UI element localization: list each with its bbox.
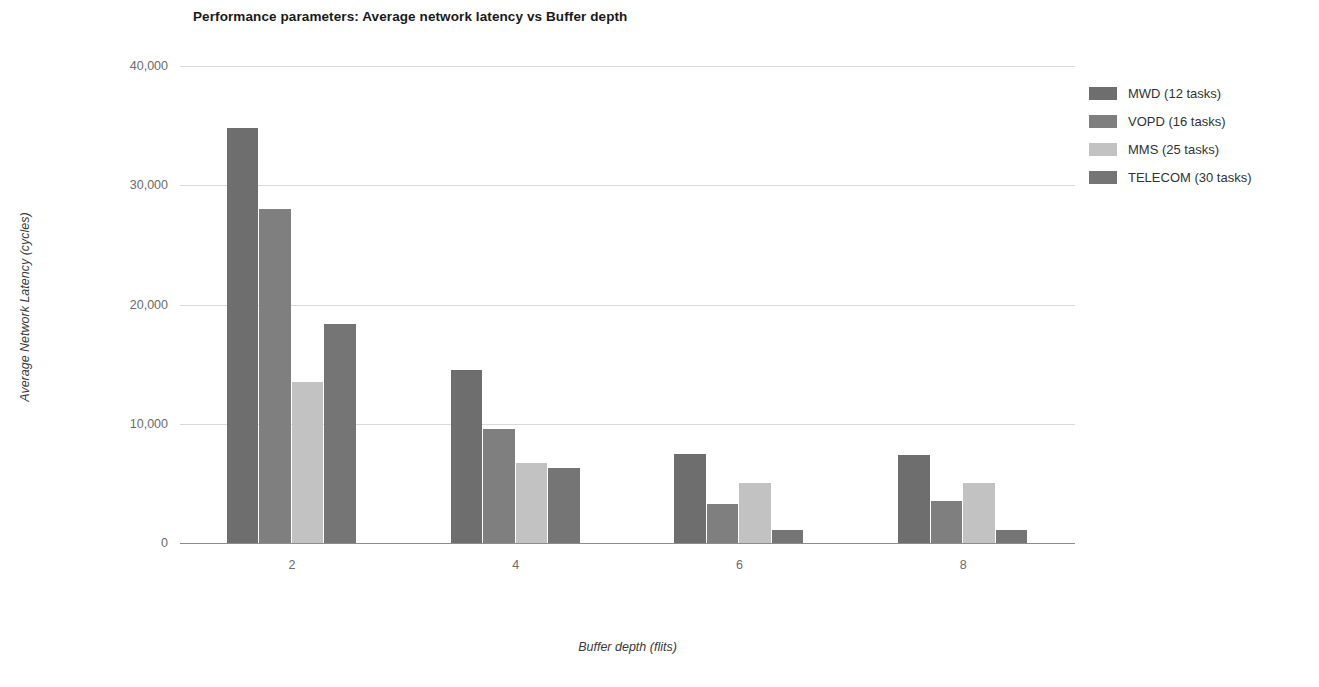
bar bbox=[707, 504, 738, 543]
gridline bbox=[180, 66, 1075, 67]
y-axis-tick-label: 0 bbox=[98, 536, 168, 550]
x-axis-title: Buffer depth (flits) bbox=[180, 640, 1075, 654]
bar bbox=[483, 429, 514, 543]
x-axis-line bbox=[180, 543, 1075, 544]
y-axis-tick-label: 20,000 bbox=[98, 298, 168, 312]
bar bbox=[996, 530, 1027, 543]
legend-swatch-icon bbox=[1089, 115, 1117, 128]
bar bbox=[227, 128, 258, 543]
legend: MWD (12 tasks)VOPD (16 tasks)MMS (25 tas… bbox=[1089, 79, 1314, 191]
bar bbox=[324, 324, 355, 543]
legend-item[interactable]: TELECOM (30 tasks) bbox=[1089, 163, 1314, 191]
y-axis-tick-labels: 010,00020,00030,00040,000 bbox=[98, 0, 168, 687]
legend-swatch-icon bbox=[1089, 171, 1117, 184]
y-axis-tick-label: 40,000 bbox=[98, 59, 168, 73]
bar bbox=[259, 209, 290, 543]
y-axis-tick-label: 30,000 bbox=[98, 178, 168, 192]
legend-item[interactable]: MWD (12 tasks) bbox=[1089, 79, 1314, 107]
gridline bbox=[180, 185, 1075, 186]
bar bbox=[548, 468, 579, 543]
x-axis-tick-label: 8 bbox=[960, 558, 967, 572]
bar bbox=[451, 370, 482, 543]
bar bbox=[898, 455, 929, 543]
legend-item[interactable]: VOPD (16 tasks) bbox=[1089, 107, 1314, 135]
bar bbox=[516, 463, 547, 543]
legend-item-label: MWD (12 tasks) bbox=[1128, 86, 1221, 101]
gridline bbox=[180, 305, 1075, 306]
legend-item-label: MMS (25 tasks) bbox=[1128, 142, 1219, 157]
chart-title: Performance parameters: Average network … bbox=[193, 9, 627, 24]
x-axis-tick-label: 2 bbox=[288, 558, 295, 572]
legend-swatch-icon bbox=[1089, 87, 1117, 100]
legend-swatch-icon bbox=[1089, 143, 1117, 156]
bar bbox=[772, 530, 803, 543]
x-axis-tick-label: 6 bbox=[736, 558, 743, 572]
chart-figure: Performance parameters: Average network … bbox=[0, 0, 1319, 687]
bar bbox=[739, 483, 770, 543]
bar bbox=[931, 501, 962, 543]
bar bbox=[963, 483, 994, 543]
legend-item[interactable]: MMS (25 tasks) bbox=[1089, 135, 1314, 163]
plot-area bbox=[180, 66, 1075, 543]
bar bbox=[674, 454, 705, 543]
x-axis-tick-label: 4 bbox=[512, 558, 519, 572]
y-axis-title: Average Network Latency (cycles) bbox=[18, 177, 32, 437]
bar bbox=[292, 382, 323, 543]
legend-item-label: VOPD (16 tasks) bbox=[1128, 114, 1226, 129]
y-axis-tick-label: 10,000 bbox=[98, 417, 168, 431]
legend-item-label: TELECOM (30 tasks) bbox=[1128, 170, 1252, 185]
